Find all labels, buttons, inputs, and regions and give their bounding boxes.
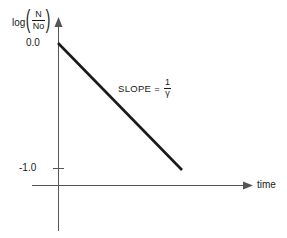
x-axis-label: time (257, 180, 276, 190)
y-axis-label-numerator: N (34, 10, 43, 19)
y-axis-label-function: log (12, 18, 25, 28)
y-tick-label-zero: 0.0 (26, 38, 40, 48)
y-axis-label-close-paren: ) (46, 7, 51, 32)
data-line-decay (58, 43, 182, 170)
y-axis-label-open-paren: ( (26, 7, 31, 32)
chart-canvas (0, 0, 287, 238)
x-axis-arrow-icon (243, 182, 253, 190)
slope-annotation-fraction: 1 γ (164, 78, 171, 99)
slope-annotation-numerator: 1 (164, 78, 171, 87)
y-tick-label-minus-one: -1.0 (19, 163, 36, 173)
y-axis-label-fraction: N No (32, 10, 46, 31)
slope-annotation-equals: = (154, 84, 160, 94)
y-axis-label-denominator: No (32, 22, 46, 31)
chart-figure: log ( N No ) 0.0 -1.0 time SLOPE = 1 γ (0, 0, 287, 238)
slope-annotation-denominator: γ (164, 89, 171, 98)
y-axis-label: log ( N No ) (12, 8, 51, 33)
slope-annotation: SLOPE = 1 γ (118, 78, 172, 99)
y-axis-arrow-icon (55, 17, 63, 27)
slope-annotation-label: SLOPE (118, 84, 151, 94)
